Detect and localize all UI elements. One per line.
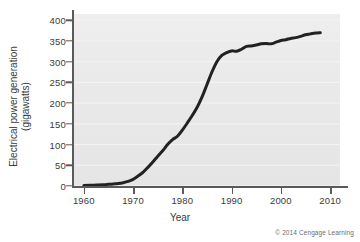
x-tick-label: 1990 bbox=[221, 195, 243, 206]
x-tick-label: 1960 bbox=[73, 195, 95, 206]
y-axis-title-line-2: (gigawatts) bbox=[19, 17, 31, 197]
plot-svg bbox=[74, 14, 340, 186]
x-tick-label: 1970 bbox=[122, 195, 144, 206]
x-tick-label: 1980 bbox=[171, 195, 193, 206]
y-tick-mark bbox=[66, 40, 73, 41]
x-tick-mark bbox=[281, 188, 282, 194]
y-tick-mark bbox=[66, 102, 73, 103]
x-tick-mark bbox=[84, 188, 85, 194]
gridlines bbox=[74, 20, 340, 186]
y-tick-label: 200 bbox=[36, 98, 66, 109]
y-tick-label: 100 bbox=[36, 139, 66, 150]
data-series-line bbox=[84, 33, 320, 186]
x-tick-mark bbox=[182, 188, 183, 194]
x-axis-line bbox=[72, 186, 348, 188]
y-tick-label: 50 bbox=[36, 160, 66, 171]
y-axis-title-line-1: Electrical power generation bbox=[8, 17, 20, 197]
y-tick-label: 150 bbox=[36, 118, 66, 129]
copyright-credit: © 2014 Cengage Learning bbox=[275, 229, 354, 236]
y-axis-title: Electrical power generation (gigawatts) bbox=[8, 17, 31, 197]
x-axis-title: Year bbox=[0, 212, 360, 223]
x-tick-mark bbox=[232, 188, 233, 194]
y-tick-mark bbox=[66, 82, 73, 83]
y-tick-label: 300 bbox=[36, 56, 66, 67]
x-tick-mark bbox=[330, 188, 331, 194]
x-tick-label: 2000 bbox=[270, 195, 292, 206]
x-tick-label: 2010 bbox=[319, 195, 341, 206]
y-tick-label: 250 bbox=[36, 77, 66, 88]
y-axis-line bbox=[72, 10, 74, 188]
y-tick-mark bbox=[66, 144, 73, 145]
y-tick-label: 0 bbox=[36, 181, 66, 192]
y-tick-mark bbox=[66, 20, 73, 21]
y-tick-mark bbox=[66, 61, 73, 62]
y-tick-mark bbox=[66, 185, 73, 186]
chart-figure: 050100150200250300350400 196019701980199… bbox=[0, 0, 360, 242]
y-tick-label: 400 bbox=[36, 15, 66, 26]
plot-area bbox=[74, 14, 340, 186]
y-tick-mark bbox=[66, 123, 73, 124]
x-tick-mark bbox=[133, 188, 134, 194]
y-tick-mark bbox=[66, 165, 73, 166]
y-tick-label: 350 bbox=[36, 35, 66, 46]
